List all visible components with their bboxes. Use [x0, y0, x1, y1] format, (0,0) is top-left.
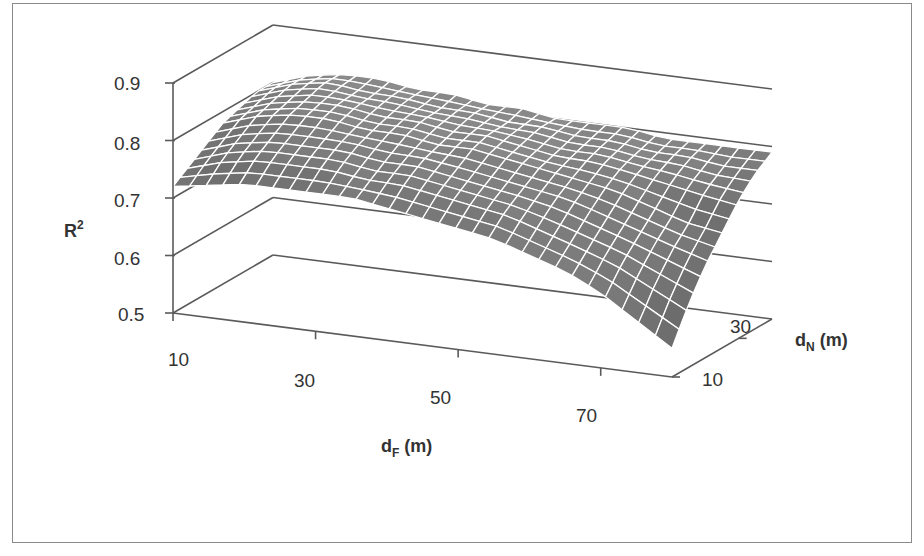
z-tick-label: 0.5	[118, 304, 144, 325]
z-tick-label: 0.6	[114, 248, 140, 269]
grid-line	[173, 313, 672, 377]
x-axis-title-unit: (m)	[399, 436, 432, 456]
grid-line	[173, 198, 273, 256]
x-axis-title-sub: F	[392, 446, 399, 460]
x-axis-title: dF (m)	[381, 436, 432, 460]
x-tick-label: 30	[294, 370, 315, 391]
x-tick-label: 70	[576, 405, 597, 426]
z-tick-label: 0.9	[114, 73, 140, 94]
z-axis-title-main: R	[64, 221, 77, 241]
surface-mesh	[173, 75, 772, 349]
y-axis-title-unit: (m)	[815, 330, 848, 350]
x-tick-label: 10	[168, 349, 189, 370]
y-axis-title-main: d	[795, 330, 806, 350]
x-axis-title-main: d	[381, 436, 392, 456]
grid-line	[173, 255, 273, 313]
surface-chart: 0.9 0.8 0.7 0.6 0.5 R2 10 30 50 70 dF (m…	[0, 0, 924, 556]
z-axis-title-sup: 2	[77, 218, 84, 232]
z-axis-title: R2	[64, 218, 84, 241]
x-tick-label: 50	[430, 387, 451, 408]
y-tick-label: 10	[702, 369, 723, 390]
z-tick-label: 0.8	[114, 133, 140, 154]
y-axis-title: dN (m)	[795, 330, 848, 354]
z-tick-label: 0.7	[114, 190, 140, 211]
y-axis-title-sub: N	[806, 340, 815, 354]
y-tick-label: 30	[730, 316, 751, 337]
grid-line	[173, 25, 273, 83]
